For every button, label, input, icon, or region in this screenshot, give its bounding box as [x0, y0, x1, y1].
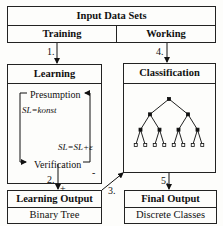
tree-edge	[136, 130, 141, 145]
tree-leaf-node	[201, 144, 204, 147]
tree-edge	[169, 99, 188, 114]
tree-edge	[188, 114, 198, 129]
arrow-output-to-classification	[102, 173, 123, 190]
loop-right-bracket	[83, 93, 90, 162]
tree-edge	[141, 114, 151, 129]
binary-tree	[134, 98, 204, 147]
tree-inner-node	[139, 128, 142, 131]
tree-edge	[155, 130, 160, 145]
tree-inner-node	[158, 128, 161, 131]
tree-edge	[150, 99, 169, 114]
tree-edge	[174, 130, 179, 145]
loop-left-bracket	[20, 93, 27, 162]
tree-edge	[193, 130, 198, 145]
tree-leaf-node	[134, 144, 137, 147]
tree-edge	[141, 130, 146, 145]
tree-leaf-node	[182, 144, 185, 147]
tree-leaf-node	[153, 144, 156, 147]
tree-inner-node	[168, 98, 171, 101]
tree-edge	[150, 114, 160, 129]
tree-edge	[179, 130, 184, 145]
tree-edge	[160, 130, 165, 145]
tree-edge	[179, 114, 189, 129]
tree-leaf-node	[144, 144, 147, 147]
tree-inner-node	[187, 113, 190, 116]
tree-inner-node	[177, 128, 180, 131]
tree-inner-node	[196, 128, 199, 131]
diagram-overlay	[0, 0, 223, 226]
tree-leaf-node	[172, 144, 175, 147]
tree-leaf-node	[163, 144, 166, 147]
tree-inner-node	[149, 113, 152, 116]
tree-edge	[198, 130, 203, 145]
tree-leaf-node	[191, 144, 194, 147]
